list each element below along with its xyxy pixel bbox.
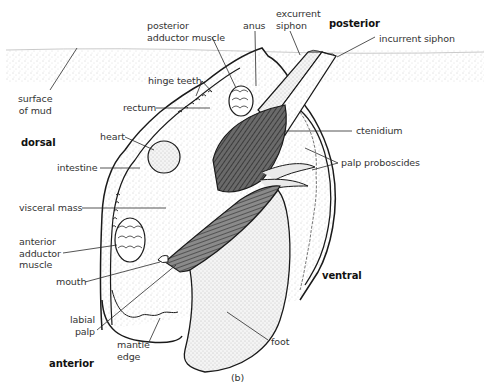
label-anterior-adductor-muscle: anterior adductor muscle — [19, 236, 61, 271]
label-visceral-mass: visceral mass — [19, 202, 82, 214]
anterior-adductor-muscle-shape — [115, 218, 145, 262]
label-heart: heart — [100, 131, 125, 143]
label-palp-proboscides: palp proboscides — [341, 157, 420, 169]
label-foot: foot — [271, 336, 289, 348]
label-intestine: intestine — [57, 162, 98, 174]
label-rectum: rectum — [123, 102, 156, 114]
clam-anatomy-diagram: posterior adductor muscle anus excurrent… — [0, 0, 487, 390]
label-hinge-teeth: hinge teeth — [148, 75, 202, 87]
label-ctenidium: ctenidium — [356, 125, 403, 137]
label-surface-of-mud: surface of mud — [18, 93, 52, 116]
label-mouth: mouth — [56, 276, 86, 288]
orientation-ventral: ventral — [322, 270, 362, 282]
label-mantle-edge: mantle edge — [117, 339, 150, 362]
orientation-posterior: posterior — [329, 18, 380, 30]
figure-panel-label: (b) — [231, 372, 244, 384]
posterior-adductor-muscle-shape — [229, 86, 253, 116]
label-anus: anus — [243, 20, 265, 32]
label-labial-palp: labial palp — [70, 314, 95, 337]
heart-shape — [148, 141, 180, 173]
orientation-dorsal: dorsal — [21, 137, 56, 149]
orientation-anterior: anterior — [49, 358, 94, 370]
label-posterior-adductor-muscle: posterior adductor muscle — [147, 20, 225, 43]
label-excurrent-siphon: excurrent siphon — [276, 8, 321, 31]
label-incurrent-siphon: incurrent siphon — [379, 33, 455, 45]
